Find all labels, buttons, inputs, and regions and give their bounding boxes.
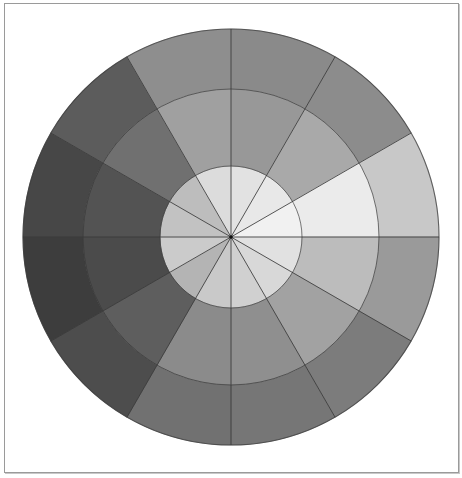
center-point (229, 235, 233, 239)
grayscale-wheel (0, 0, 462, 478)
